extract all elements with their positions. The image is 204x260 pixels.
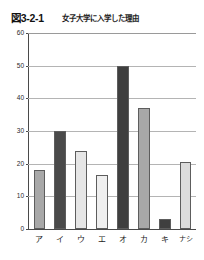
bar-エ [96,175,108,229]
x-tick-label-イ: イ [56,233,64,244]
x-tick-label-ウ: ウ [77,233,85,244]
y-tick-label: 30 [17,128,24,135]
figure-container: 図3-2-1 女子大学に入学した理由 0102030405060 アイウエオカキ… [0,0,204,260]
x-tick-label-オ: オ [119,233,127,244]
bar-ア [34,170,46,229]
bar-キ [159,219,171,229]
x-tick-label-キ: キ [161,233,169,244]
y-tick-mark [26,196,29,197]
y-tick-label: 60 [17,30,24,37]
y-tick-mark [26,229,29,230]
y-tick-mark [26,33,29,34]
y-tick-mark [26,66,29,67]
y-tick-label: 20 [17,160,24,167]
y-tick-mark [26,98,29,99]
x-tick-label-エ: エ [98,233,106,244]
figure-title: 女子大学に入学した理由 [62,12,139,23]
bar-カ [138,108,150,229]
gridline-0 [28,229,196,230]
x-tick-label-カ: カ [140,233,148,244]
y-tick-label: 40 [17,95,24,102]
x-tick-label-ア: ア [35,233,43,244]
bar-ウ [75,151,87,229]
figure-number: 図3-2-1 [11,10,44,25]
y-tick-label: 0 [20,226,24,233]
x-tick-label-ナシ: ナシ [179,233,193,243]
y-tick-label: 50 [17,62,24,69]
bars-group [29,33,196,229]
figure-header: 図3-2-1 女子大学に入学した理由 [0,8,204,28]
y-tick-mark [26,131,29,132]
y-tick-label: 10 [17,193,24,200]
bar-ナシ [180,162,192,229]
y-tick-mark [26,164,29,165]
x-axis-labels: アイウエオカキナシ [29,231,196,247]
bar-オ [117,66,129,229]
plot-area: 0102030405060 [28,33,196,229]
bar-イ [54,131,66,229]
